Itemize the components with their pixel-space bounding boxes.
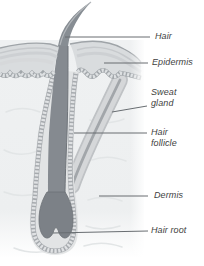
label-epidermis: Epidermis: [152, 57, 193, 68]
label-hair: Hair: [155, 31, 172, 42]
label-hair-follicle: Hair follicle: [151, 127, 195, 149]
label-sweat-gland: Sweat gland: [151, 87, 195, 109]
hair-blade: [58, 2, 91, 46]
label-hair-root: Hair root: [151, 225, 201, 236]
skin-anatomy-figure: Hair Epidermis Sweat gland Hair follicle…: [0, 0, 204, 266]
label-dermis: Dermis: [154, 190, 183, 201]
